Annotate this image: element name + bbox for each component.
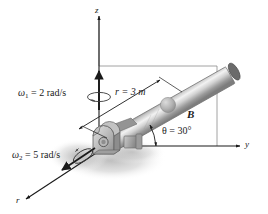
omega2-subscript: 2 (19, 154, 23, 162)
theta-label: θ = 30° (162, 126, 191, 136)
omega1-value: = 2 rad/s (31, 87, 66, 98)
omega1-label: ω1 = 2 rad/s (18, 88, 66, 100)
omega1-subscript: 1 (25, 92, 29, 100)
omega1-symbol: ω (18, 87, 25, 98)
collar-b (160, 97, 175, 112)
diagram-canvas (0, 0, 268, 214)
radius-label: r = 3 m (115, 87, 145, 97)
omega2-value: = 5 rad/s (25, 149, 60, 160)
axis-label-r: r (16, 196, 20, 205)
mechanics-figure: z y r ω1 = 2 rad/s ω2 = 5 rad/s r = 3 m … (0, 0, 268, 214)
axis-label-y: y (245, 140, 249, 149)
axis-label-z: z (95, 6, 99, 15)
omega1-indicator (88, 71, 111, 110)
point-label-b: B (187, 109, 194, 120)
omega2-symbol: ω (12, 149, 19, 160)
omega2-label: ω2 = 5 rad/s (12, 150, 60, 162)
